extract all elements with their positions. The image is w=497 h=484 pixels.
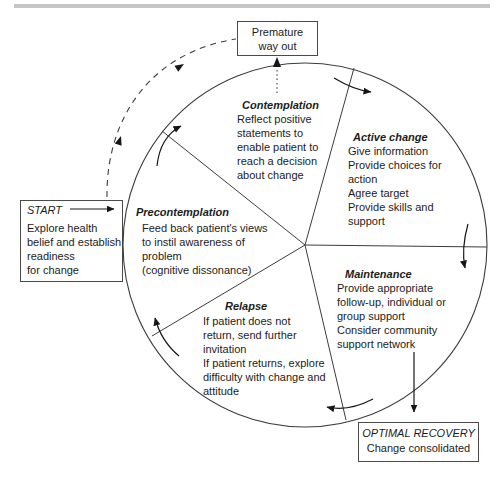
stage-maintenance-description: Provide appropriate follow-up, individua…: [337, 281, 446, 351]
start-box: START Explore health belief and establis…: [20, 200, 123, 282]
stage-active-change-description: Give information Provide choices for act…: [348, 144, 442, 228]
stage-relapse-title: Relapse: [225, 299, 326, 313]
stage-precontemplation-description: Feed back patient's views to instil awar…: [142, 221, 268, 277]
optimal-recovery-title: OPTIMAL RECOVERY: [359, 426, 478, 441]
start-label: START: [27, 203, 122, 217]
stage-contemplation: Contemplation Reflect positive statement…: [237, 98, 319, 182]
stage-contemplation-description: Reflect positive statements to enable pa…: [237, 112, 319, 182]
stage-contemplation-title: Contemplation: [242, 98, 319, 112]
stage-maintenance: Maintenance Provide appropriate follow-u…: [337, 267, 446, 351]
divider-active-maintenance: [305, 245, 487, 247]
stage-active-change: Active change Give information Provide c…: [348, 130, 442, 228]
stage-maintenance-title: Maintenance: [345, 267, 446, 281]
stage-precontemplation-title: Precontemplation: [136, 205, 268, 219]
flow-arrow-precontemplation-to-contemplation: [157, 126, 181, 166]
stage-relapse-description: If patient does not return, send further…: [203, 314, 326, 398]
premature-exit-arc: [107, 39, 236, 197]
exit-arc-arrowhead-lower: [115, 135, 125, 146]
flow-arrow-maintenance-to-relapse: [327, 399, 373, 408]
flow-arrow-contemplation-to-active: [334, 78, 371, 92]
stage-relapse: Relapse If patient does not return, send…: [203, 299, 326, 398]
stage-precontemplation: Precontemplation Feed back patient's vie…: [136, 205, 268, 277]
premature-way-out-box: Premature way out: [237, 21, 318, 56]
optimal-recovery-subtitle: Change consolidated: [367, 442, 470, 454]
exit-arc-arrowhead-upper: [174, 61, 185, 72]
optimal-recovery-box: OPTIMAL RECOVERY Change consolidated: [358, 422, 479, 462]
stage-active-change-title: Active change: [353, 130, 442, 144]
start-description: Explore health belief and establish read…: [27, 221, 122, 277]
flow-arrow-relapse-to-precontemplation: [155, 318, 179, 356]
stages-of-change-diagram: Premature way out START Explore health b…: [0, 0, 497, 484]
premature-arrowhead: [273, 57, 281, 67]
top-rule-divider: [14, 4, 490, 8]
flow-arrow-active-to-maintenance: [464, 224, 468, 268]
